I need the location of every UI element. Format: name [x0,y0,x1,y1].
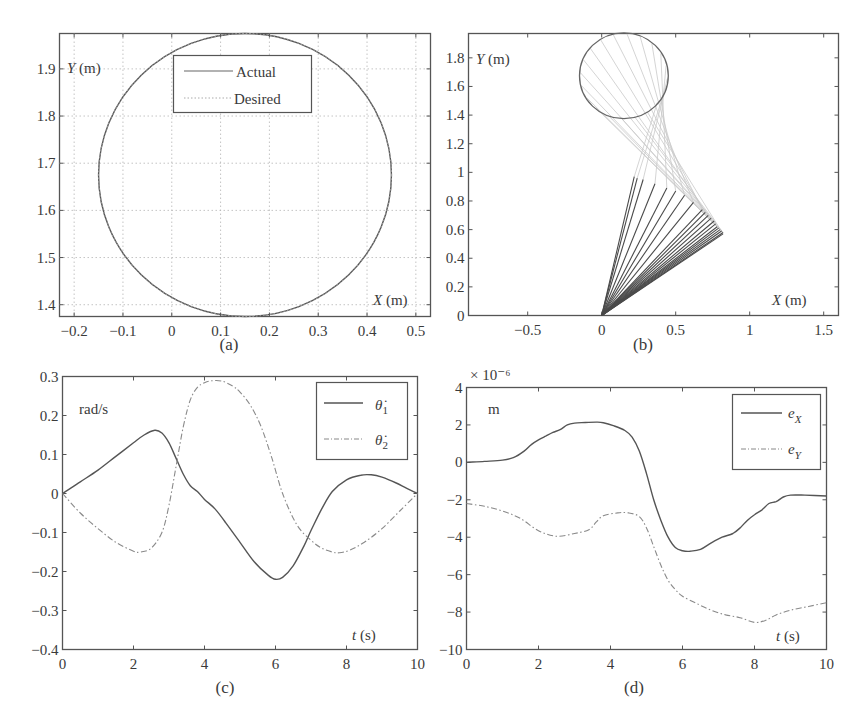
y-tick-label: 0.4 [446,250,465,266]
legend: Actual Desired [174,56,312,113]
y-tick-label: 0 [51,486,59,502]
link-2-line [596,108,719,228]
link-1-line [602,218,712,315]
end-effector-path [580,33,669,119]
y-unit-label: rad/s [79,401,108,417]
x-tick-label: 4 [201,656,209,672]
y-tick-label: −0.1 [31,525,58,541]
x-tick-label: 10 [819,656,834,672]
legend-entry-actual: Actual [236,64,276,80]
panel-b-arm-configuration-plot: −0.500.511.500.20.40.60.811.21.41.61.8 Y… [446,33,839,354]
x-tick-label: 0 [598,322,606,338]
link-2-line [647,111,723,233]
link-2-line [601,40,705,212]
y-multiplier-label: × 10⁻⁶ [470,367,510,383]
y-tick-label: 1.5 [37,250,56,266]
link-2-line [582,86,716,224]
y-tick-label: 0.2 [40,408,59,424]
y-tick-label: −2 [447,492,463,508]
link-2-line [634,117,723,233]
x-tick-label: 4 [607,656,615,672]
x-tick-label: −0.5 [514,322,541,338]
x-tick-label: 0.2 [260,323,279,339]
y-tick-label: −8 [447,604,463,620]
y-tick-label: 4 [455,380,463,396]
link-1-line [602,215,709,315]
link-1-line [602,210,703,316]
panel-caption: (a) [220,335,239,354]
x-tick-label: 0.4 [358,323,377,339]
x-tick-label: 0 [463,656,471,672]
y-tick-label: −0.3 [31,603,58,619]
x-axis-label: t (s) [776,628,800,645]
figure: −0.2−0.100.10.20.30.40.51.41.51.61.71.81… [0,0,866,717]
x-tick-label: 0.5 [406,323,425,339]
link-2-line [584,60,712,218]
panel-d-tracking-error-plot: 0246810−10−8−6−4−2024 × 10⁻⁶ m t (s) eX … [439,367,834,697]
legend: θ̇1 θ̇2 [317,383,408,460]
x-tick-label: 0 [59,656,67,672]
x-tick-label: 2 [130,656,138,672]
y-tick-label: 0 [457,308,465,324]
y-tick-label: −10 [439,642,462,658]
x-tick-label: 2 [535,656,543,672]
y-tick-label: 0.2 [446,279,465,295]
x-tick-label: 0.3 [309,323,328,339]
legend-box [733,395,821,470]
x-tick-label: 10 [410,656,425,672]
panel-caption: (b) [633,335,653,354]
legend: eX eY [733,395,821,470]
x-tick-label: 8 [343,656,351,672]
x-tick-label: −0.2 [61,323,88,339]
y-unit-label: m [488,401,500,417]
arm-links [580,33,724,316]
x-tick-label: 8 [751,656,759,672]
legend-entry-desired: Desired [234,91,281,107]
x-tick-label: 6 [679,656,687,672]
y-tick-label: −0.2 [31,564,58,580]
y-axis-label: Y (m) [67,60,101,77]
y-tick-label: 0.8 [446,193,465,209]
panel-c-joint-velocity-plot: 0246810−0.4−0.3−0.2−0.100.10.20.3 rad/s … [31,369,425,698]
x-tick-label: 0.5 [666,322,685,338]
y-tick-label: 1.6 [37,202,56,218]
y-tick-label: 1.8 [446,50,465,66]
link-2-line [637,91,664,178]
y-tick-label: −4 [447,529,463,545]
y-tick-label: 1.2 [446,136,465,152]
y-tick-label: 1 [457,164,465,180]
y-tick-label: −0.4 [31,642,59,658]
x-tick-label: 6 [272,656,280,672]
link-2-line [608,115,720,230]
x-tick-label: −0.1 [109,323,136,339]
y-tick-label: 0.6 [446,222,465,238]
panel-caption: (c) [216,678,235,697]
y-tick-label: −6 [447,567,463,583]
y-tick-label: 0 [455,454,463,470]
x-tick-label: 0 [168,323,176,339]
y-tick-label: 0.1 [40,447,59,463]
legend-box [317,383,408,460]
y-tick-label: 1.9 [37,61,56,77]
y-tick-label: 0.3 [40,369,59,385]
y-axis-label: Y (m) [476,51,510,68]
panel-caption: (d) [624,678,644,697]
y-tick-label: 1.8 [37,108,56,124]
y-tick-label: 1.7 [37,155,56,171]
y-tick-label: 1.6 [446,78,465,94]
x-axis-label: X (m) [771,292,807,309]
y-tick-label: 1.4 [37,297,56,313]
x-tick-label: 1 [746,322,754,338]
x-tick-label: 1.5 [814,322,833,338]
series-e-y [467,504,827,623]
y-tick-label: 2 [455,417,463,433]
link-2-line [613,35,702,210]
x-axis-label: t (s) [352,627,376,644]
x-axis-label: X (m) [372,292,408,309]
panel-a-trajectory-plot: −0.2−0.100.10.20.30.40.51.41.51.61.71.81… [37,34,431,355]
y-tick-label: 1.4 [446,107,465,123]
